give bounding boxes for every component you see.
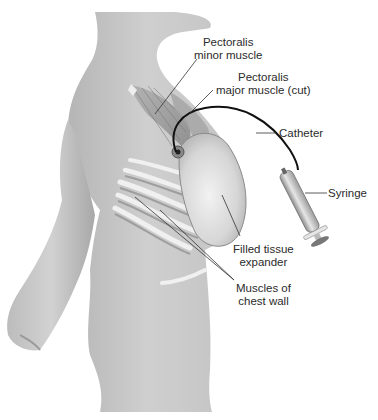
syringe — [271, 162, 333, 250]
label-line: chest wall — [236, 295, 291, 308]
label-line: Filled tissue — [233, 243, 294, 256]
label-catheter: Catheter — [279, 127, 323, 140]
label-pectoralis-minor: Pectoralis minor muscle — [194, 36, 262, 62]
label-line: Pectoralis — [194, 36, 262, 49]
anatomy-illustration — [0, 0, 378, 420]
label-muscles-of-chest-wall: Muscles of chest wall — [236, 282, 291, 308]
label-line: Pectoralis — [216, 71, 311, 84]
label-line: Muscles of — [236, 282, 291, 295]
label-line: major muscle (cut) — [216, 84, 311, 97]
label-line: minor muscle — [194, 49, 262, 62]
label-line: Catheter — [279, 127, 323, 140]
label-line: expander — [233, 256, 294, 269]
label-line: Syringe — [328, 187, 367, 200]
label-syringe: Syringe — [328, 187, 367, 200]
label-filled-tissue-expander: Filled tissue expander — [233, 243, 294, 269]
label-pectoralis-major: Pectoralis major muscle (cut) — [216, 71, 311, 97]
